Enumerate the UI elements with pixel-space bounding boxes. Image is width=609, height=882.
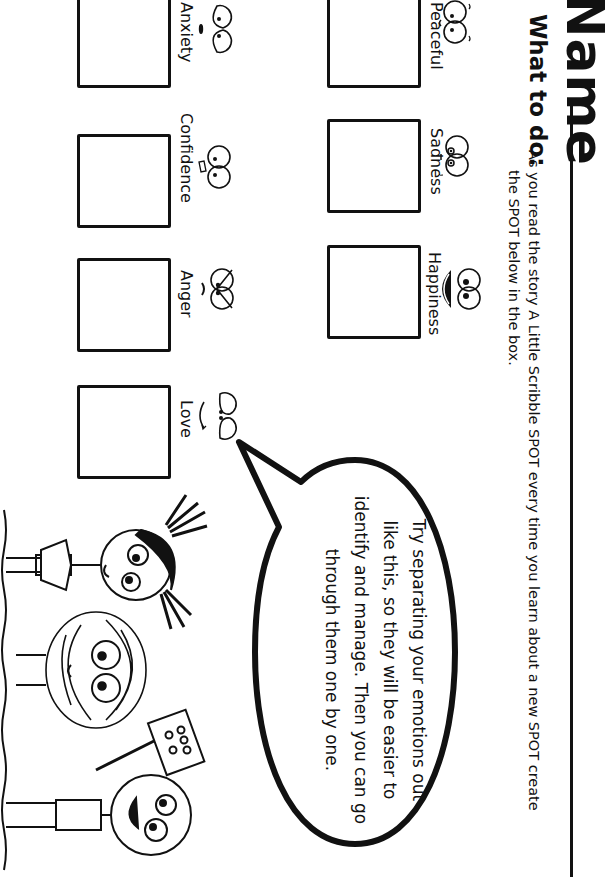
- emotion-drawing-box[interactable]: [327, 119, 421, 213]
- love-face-icon: [196, 390, 246, 445]
- scribble-character-icon: [16, 612, 146, 728]
- emotion-drawing-box[interactable]: [327, 0, 421, 88]
- bubble-line: Try separating your emotions out: [404, 495, 433, 825]
- boy-character-icon: [6, 710, 204, 855]
- emotion-drawing-box[interactable]: [77, 258, 171, 352]
- emotion-label: Anxiety: [177, 2, 196, 63]
- anxious-face-icon: [196, 2, 241, 57]
- emotion-label: Peaceful: [427, 2, 446, 70]
- emotion-drawing-box[interactable]: [77, 0, 171, 88]
- girl-character-icon: [6, 495, 207, 629]
- instructions-line-2: the SPOT below in the box.: [504, 150, 524, 850]
- instructions: As you read the story A Little Scribble …: [504, 150, 544, 850]
- confident-face-icon: [196, 145, 241, 200]
- emotion-label: Confidence: [177, 113, 196, 203]
- speech-bubble-text: Try separating your emotions out like th…: [317, 495, 433, 825]
- emotion-label: Happiness: [425, 252, 444, 335]
- emotion-label: Anger: [177, 270, 196, 318]
- emotion-drawing-box[interactable]: [77, 134, 171, 228]
- angry-face-icon: [196, 266, 246, 321]
- emotion-drawing-box[interactable]: [327, 245, 421, 339]
- bubble-line: like this, so they will be easier to: [375, 495, 404, 825]
- emotion-label: Sadness: [427, 128, 446, 195]
- children-illustration: [0, 470, 256, 882]
- ground-line: [2, 510, 6, 870]
- name-write-line[interactable]: [570, 105, 573, 877]
- instructions-line-1: As you read the story A Little Scribble …: [526, 150, 542, 811]
- bubble-line: identify and manage. Then you can go: [346, 495, 375, 825]
- bubble-line: through them one by one.: [317, 495, 346, 825]
- happy-face-icon: [437, 260, 489, 320]
- emotion-label: Love: [177, 400, 196, 438]
- emotion-drawing-box[interactable]: [77, 385, 171, 479]
- page-title: Name: [555, 0, 609, 166]
- what-to-do-label: What to do:: [525, 14, 551, 167]
